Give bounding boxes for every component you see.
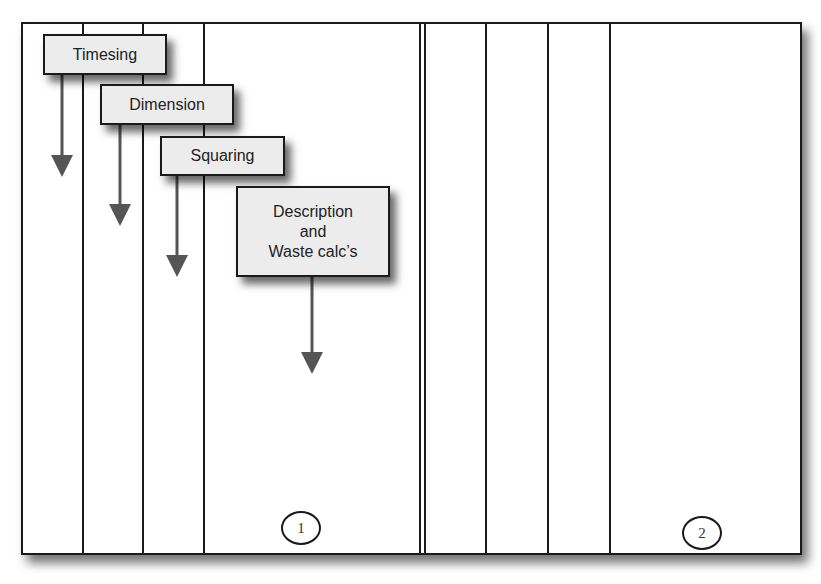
step-label-line: Description (273, 202, 353, 222)
step-box-description-waste: Description and Waste calc’s (236, 186, 390, 277)
page-number-2: 2 (682, 516, 722, 550)
page-number-text: 2 (698, 525, 706, 542)
page-number-1: 1 (281, 511, 321, 545)
arrow-down-icon (51, 74, 73, 177)
step-box-dimension: Dimension (100, 84, 234, 125)
arrow-down-icon (109, 124, 131, 226)
step-label-line: and (300, 222, 327, 242)
step-box-timesing: Timesing (43, 34, 167, 75)
page-number-text: 1 (297, 520, 305, 537)
arrow-down-icon (166, 175, 188, 277)
step-label-line: Waste calc’s (269, 242, 358, 262)
step-label: Timesing (73, 45, 137, 65)
arrow-down-icon (301, 276, 323, 374)
step-label: Squaring (190, 146, 254, 166)
step-label: Dimension (129, 95, 205, 115)
step-box-squaring: Squaring (160, 136, 285, 176)
